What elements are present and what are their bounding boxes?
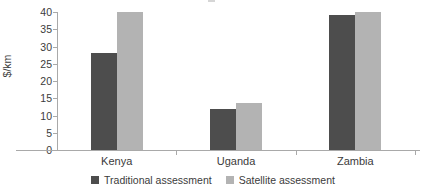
y-axis-tick-label: 5 [46,128,52,139]
x-axis-line [16,150,420,151]
y-axis-tick-label: 30 [40,41,52,52]
legend-swatch-icon [226,176,234,184]
bar [117,12,143,150]
bar [329,15,355,150]
y-axis-tick-label: 10 [40,110,52,121]
y-axis-tick-label: 40 [40,7,52,18]
clipped-artifact [208,0,215,2]
x-axis-category-label: Uganda [217,155,256,167]
bar-group [210,12,262,150]
bar-chart: $/km 0510152025303540 KenyaUgandaZambia … [0,0,426,195]
legend-label: Satellite assessment [239,174,335,186]
bar [355,12,381,150]
bar-group [91,12,143,150]
y-axis-title: $/km [1,36,13,96]
y-axis-tick-label: 15 [40,93,52,104]
plot-area [57,12,415,150]
x-axis-category-label: Kenya [101,155,132,167]
legend-label: Traditional assessment [104,174,212,186]
legend-item[interactable]: Satellite assessment [226,174,335,186]
bar [91,53,117,150]
y-axis-labels: 0510152025303540 [24,12,52,150]
y-axis-tick-label: 35 [40,24,52,35]
x-axis-group-separator [296,150,297,155]
x-axis-group-separator [176,150,177,155]
bar [236,103,262,150]
legend-swatch-icon [91,176,99,184]
legend-item[interactable]: Traditional assessment [91,174,212,186]
x-axis-group-separator [415,150,416,155]
chart-legend: Traditional assessmentSatellite assessme… [0,174,426,186]
bar-group [329,12,381,150]
x-axis-category-label: Zambia [337,155,374,167]
bar [210,109,236,150]
y-axis-tick-label: 25 [40,59,52,70]
y-axis-tick-label: 20 [40,76,52,87]
